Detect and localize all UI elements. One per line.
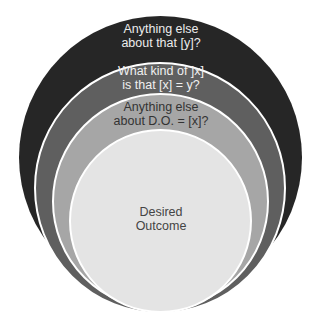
second-label-line-1: What kind of ]x] (0, 65, 322, 79)
second-circle-label: What kind of ]x] is that [x] = y? (0, 65, 322, 92)
outer-label-line-1: Anything else (0, 23, 322, 37)
second-label-line-2: is that [x] = y? (0, 79, 322, 93)
third-label-line-2: about D.O. = [x]? (0, 115, 322, 129)
outer-circle-label: Anything else about that [y]? (0, 23, 322, 50)
third-circle-label: Anything else about D.O. = [x]? (0, 101, 322, 128)
core-circle-label: Desired Outcome (0, 206, 322, 233)
core-label-line-2: Outcome (0, 220, 322, 234)
core-label-line-1: Desired (0, 206, 322, 220)
outer-label-line-2: about that [y]? (0, 37, 322, 51)
third-label-line-1: Anything else (0, 101, 322, 115)
